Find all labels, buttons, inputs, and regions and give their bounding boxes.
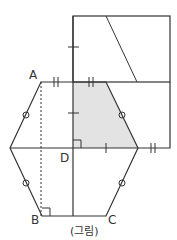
- label-b: B: [31, 213, 39, 227]
- shaded-trapezoid: [73, 82, 138, 148]
- right-angle-mark-b: [42, 208, 50, 216]
- label-c: C: [108, 213, 116, 227]
- label-a: A: [29, 68, 38, 82]
- right-rectangle: [138, 82, 170, 148]
- square-diagonal: [106, 16, 137, 82]
- geometry-figure: A D B C (그림): [0, 0, 177, 240]
- figure-caption: (그림): [70, 225, 99, 238]
- label-d: D: [60, 151, 69, 165]
